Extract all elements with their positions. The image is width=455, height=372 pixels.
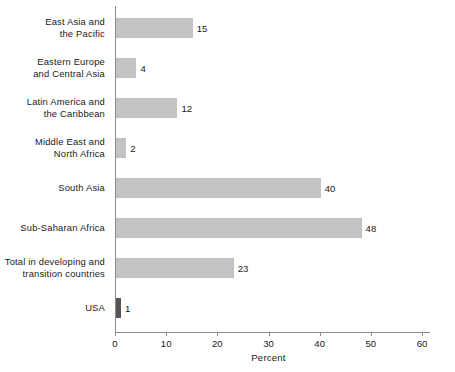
bar[interactable] xyxy=(116,218,362,238)
category-label-line: the Caribbean xyxy=(44,108,105,120)
bar[interactable] xyxy=(116,98,177,118)
category-label-line: Total in developing and xyxy=(5,256,105,268)
x-axis-tick xyxy=(217,332,218,336)
bar-row: Middle East andNorth Africa2 xyxy=(0,128,455,168)
x-axis-tick-label: 50 xyxy=(351,338,391,349)
bar-value-label: 48 xyxy=(362,218,377,238)
bar-row: Eastern Europeand Central Asia4 xyxy=(0,48,455,88)
x-axis-tick xyxy=(115,332,116,336)
x-axis-tick-label: 0 xyxy=(95,338,135,349)
bar-value-label: 2 xyxy=(126,138,135,158)
x-axis-tick-label: 30 xyxy=(249,338,289,349)
category-label-line: USA xyxy=(85,302,105,314)
x-axis-line xyxy=(115,332,430,333)
bar-row: USA1 xyxy=(0,288,455,328)
x-axis-tick xyxy=(371,332,372,336)
bar-row: Total in developing andtransition countr… xyxy=(0,248,455,288)
category-label-line: Middle East and xyxy=(35,136,105,148)
category-label: Eastern Europeand Central Asia xyxy=(0,48,105,88)
category-label: East Asia andthe Pacific xyxy=(0,8,105,48)
x-axis-tick-label: 20 xyxy=(197,338,237,349)
bar-value-label: 1 xyxy=(121,298,130,318)
category-label: Middle East andNorth Africa xyxy=(0,128,105,168)
category-label-line: the Pacific xyxy=(60,28,105,40)
category-label: Latin America andthe Caribbean xyxy=(0,88,105,128)
x-axis-tick xyxy=(422,332,423,336)
category-label-line: Eastern Europe xyxy=(37,56,105,68)
category-label-line: East Asia and xyxy=(45,16,105,28)
category-label-line: North Africa xyxy=(54,148,105,160)
bar-value-label: 12 xyxy=(177,98,192,118)
bar-row: South Asia40 xyxy=(0,168,455,208)
category-label-line: transition countries xyxy=(23,268,105,280)
x-axis-tick-label: 60 xyxy=(402,338,442,349)
bar-value-label: 15 xyxy=(193,18,208,38)
bar-row: East Asia andthe Pacific15 xyxy=(0,8,455,48)
category-label: South Asia xyxy=(0,168,105,208)
category-label-line: Latin America and xyxy=(27,96,105,108)
bar[interactable] xyxy=(116,58,136,78)
x-axis-tick-label: 10 xyxy=(146,338,186,349)
category-label-line: South Asia xyxy=(58,182,105,194)
bar-row: Latin America andthe Caribbean12 xyxy=(0,88,455,128)
bar[interactable] xyxy=(116,258,234,278)
category-label-line: Sub-Saharan Africa xyxy=(20,222,105,234)
x-axis-tick xyxy=(166,332,167,336)
x-axis-tick xyxy=(269,332,270,336)
x-axis-tick xyxy=(320,332,321,336)
bar-value-label: 40 xyxy=(321,178,336,198)
bar-value-label: 23 xyxy=(234,258,249,278)
bar[interactable] xyxy=(116,138,126,158)
bar[interactable] xyxy=(116,18,193,38)
bar[interactable] xyxy=(116,178,321,198)
x-axis-title: Percent xyxy=(115,352,422,363)
category-label: USA xyxy=(0,288,105,328)
category-label: Total in developing andtransition countr… xyxy=(0,248,105,288)
x-axis-tick-label: 40 xyxy=(300,338,340,349)
bar-row: Sub-Saharan Africa48 xyxy=(0,208,455,248)
category-label: Sub-Saharan Africa xyxy=(0,208,105,248)
bar-chart: East Asia andthe Pacific15Eastern Europe… xyxy=(0,0,455,372)
category-label-line: and Central Asia xyxy=(33,68,105,80)
bar-value-label: 4 xyxy=(136,58,145,78)
